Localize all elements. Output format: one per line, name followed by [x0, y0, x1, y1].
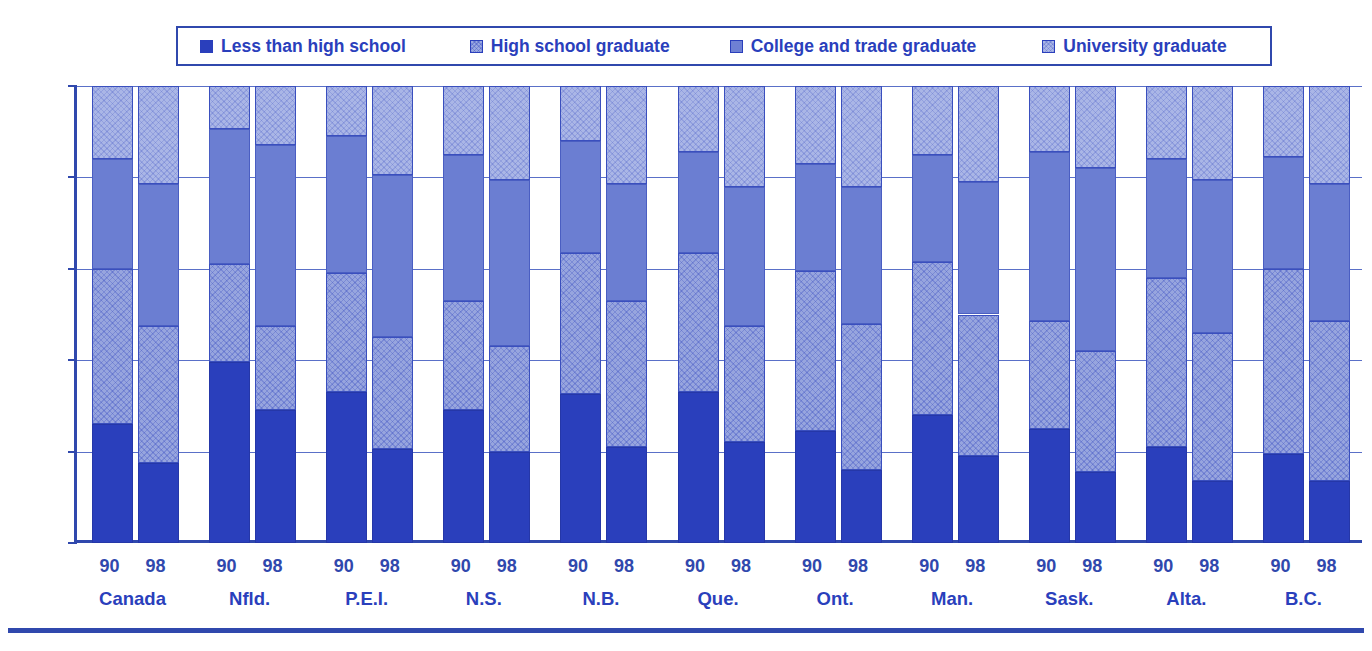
x-axis-year-label: 90 — [89, 556, 130, 577]
bar-segment-lths — [795, 431, 836, 543]
bar-ont-90 — [795, 86, 836, 540]
bar-segment-hsg — [1309, 321, 1350, 481]
legend-label: High school graduate — [491, 36, 670, 57]
bar-ns-98 — [489, 86, 530, 540]
bar-segment-hsg — [92, 269, 133, 424]
bar-segment-hsg — [912, 262, 953, 415]
bar-bc-98 — [1309, 86, 1350, 540]
y-axis-tick — [68, 268, 77, 270]
x-axis-year-label: 90 — [1260, 556, 1301, 577]
bar-segment-lths — [1146, 447, 1187, 543]
bar-nb-98 — [606, 86, 647, 540]
bar-segment-ctg — [678, 152, 719, 253]
bar-segment-ug — [1075, 86, 1116, 168]
legend-label: University graduate — [1063, 36, 1226, 57]
bar-segment-ug — [372, 86, 413, 175]
bar-segment-ctg — [138, 184, 179, 326]
bar-segment-ug — [841, 86, 882, 187]
bar-segment-ctg — [326, 136, 367, 273]
bar-segment-ug — [1263, 86, 1304, 157]
x-axis-province-labels: CanadaNfld.P.E.I.N.S.N.B.Que.Ont.Man.Sas… — [0, 588, 1372, 612]
bar-segment-hsg — [1192, 333, 1233, 482]
bar-segment-ug — [1192, 86, 1233, 180]
bar-segment-lths — [606, 447, 647, 543]
bar-segment-ug — [606, 86, 647, 184]
bar-segment-lths — [560, 394, 601, 543]
bar-canada-98 — [138, 86, 179, 540]
bar-segment-hsg — [372, 337, 413, 449]
bar-segment-ug — [489, 86, 530, 180]
x-axis-year-label: 90 — [909, 556, 950, 577]
bar-segment-hsg — [326, 273, 367, 392]
y-axis-tick — [68, 85, 77, 87]
square-swatch-icon — [730, 40, 743, 53]
bar-pei-98 — [372, 86, 413, 540]
x-axis-year-label: 90 — [557, 556, 598, 577]
bar-segment-lths — [724, 442, 765, 543]
bar-nfld-98 — [255, 86, 296, 540]
bar-segment-hsg — [678, 253, 719, 392]
y-axis-tick — [68, 359, 77, 361]
bar-segment-hsg — [1029, 321, 1070, 428]
bar-segment-hsg — [958, 315, 999, 457]
x-axis-year-label: 98 — [1072, 556, 1113, 577]
bar-segment-lths — [326, 392, 367, 543]
x-axis-year-label: 98 — [955, 556, 996, 577]
x-axis-province-label: Nfld. — [190, 588, 310, 610]
y-axis-tick — [68, 542, 77, 544]
x-axis-year-label: 90 — [206, 556, 247, 577]
bar-segment-ctg — [443, 155, 484, 301]
bar-nfld-90 — [209, 86, 250, 540]
bar-segment-lths — [138, 463, 179, 543]
legend-item-university-graduate: University graduate — [1042, 36, 1226, 57]
chart-legend: Less than high school High school gradua… — [176, 26, 1272, 66]
bar-segment-ug — [443, 86, 484, 155]
x-axis-year-label: 90 — [440, 556, 481, 577]
x-axis-year-label: 90 — [675, 556, 716, 577]
x-axis-year-label: 98 — [135, 556, 176, 577]
square-swatch-icon — [1042, 40, 1055, 53]
bar-segment-hsg — [1146, 278, 1187, 447]
x-axis-province-label: Que. — [658, 588, 778, 610]
bar-segment-ug — [255, 86, 296, 145]
bar-segment-ctg — [1075, 168, 1116, 351]
bar-segment-lths — [372, 449, 413, 543]
x-axis-year-labels: 9098909890989098909890989098909890989098… — [0, 556, 1372, 578]
bar-segment-lths — [255, 410, 296, 543]
x-axis-province-label: Ont. — [775, 588, 895, 610]
bar-ont-98 — [841, 86, 882, 540]
bar-pei-90 — [326, 86, 367, 540]
bar-segment-ug — [326, 86, 367, 136]
bar-segment-lths — [209, 362, 250, 543]
bar-segment-hsg — [443, 301, 484, 411]
x-axis-year-label: 98 — [1306, 556, 1347, 577]
bar-segment-ctg — [958, 182, 999, 315]
bar-alta-90 — [1146, 86, 1187, 540]
bar-canada-90 — [92, 86, 133, 540]
bar-segment-ctg — [841, 187, 882, 324]
x-axis-year-label: 98 — [252, 556, 293, 577]
bar-segment-ctg — [1263, 157, 1304, 269]
bar-segment-lths — [841, 470, 882, 543]
bar-segment-ctg — [912, 155, 953, 262]
bottom-rule — [8, 628, 1364, 633]
bar-segment-lths — [1309, 481, 1350, 543]
bar-segment-lths — [489, 452, 530, 543]
x-axis-year-label: 90 — [792, 556, 833, 577]
legend-label: College and trade graduate — [751, 36, 977, 57]
bar-man-98 — [958, 86, 999, 540]
bar-segment-ug — [958, 86, 999, 182]
bar-segment-ctg — [1309, 184, 1350, 321]
x-axis-year-label: 98 — [721, 556, 762, 577]
bar-segment-ug — [678, 86, 719, 152]
bar-segment-ug — [92, 86, 133, 159]
bar-segment-ctg — [372, 175, 413, 337]
bar-segment-hsg — [209, 264, 250, 362]
bar-segment-ug — [1146, 86, 1187, 159]
bar-segment-hsg — [841, 324, 882, 470]
legend-item-less-than-high-school: Less than high school — [200, 36, 406, 57]
bar-segment-ctg — [489, 180, 530, 347]
x-axis-year-label: 98 — [1189, 556, 1230, 577]
square-swatch-icon — [470, 40, 483, 53]
bar-segment-ug — [1029, 86, 1070, 152]
